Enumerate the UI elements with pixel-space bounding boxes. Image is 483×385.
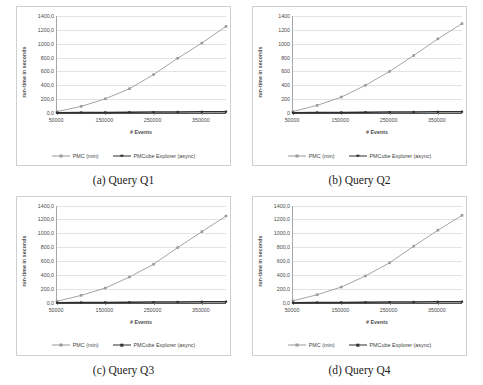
series-marker [340,285,343,288]
y-axis-tick-label: 400,0 [41,82,54,88]
y-axis-title: run-time in seconds [17,7,30,136]
subcaption-d: (d) Query Q4 [329,364,391,376]
legend-entry: PMC (min) [288,342,335,349]
plot-column: 50000150000250000350000# Events [56,197,230,326]
subfigure-b: run-time in seconds020040060080010001200… [242,6,478,194]
series-line [57,26,226,111]
plot-region: run-time in seconds0,0200,0400,0600,0800… [17,7,230,136]
series-marker [152,111,154,113]
chart-q1: run-time in seconds0,0200,0400,0600,0800… [16,6,231,166]
legend-entry: PMCube Explorer (async) [349,342,432,349]
legend-label: PMC (min) [73,342,99,348]
y-axis-tick-label: 1000 [278,41,290,47]
subcaption-b: (b) Query Q2 [329,174,391,186]
x-axis-tick-label: 350000 [428,307,446,313]
series-marker [56,301,58,303]
x-axis-title: # Events [292,129,462,135]
series-marker [388,111,390,113]
chart-legend: PMC (min)PMCube Explorer (async) [17,152,230,159]
legend-label: PMC (min) [309,342,335,348]
series-marker [201,42,204,45]
legend-label: PMCube Explorer (async) [134,342,196,348]
series-marker [80,301,82,303]
legend-entry: PMCube Explorer (async) [113,152,196,159]
series-marker [364,84,367,87]
series-marker [104,98,107,101]
y-axis-tick-label: 600,0 [41,258,54,264]
y-axis-tick-label: 400,0 [277,272,290,278]
x-axis-tick-label: 50000 [49,307,64,313]
figure-row-bottom: run-time in seconds0,0200,0400,0600,0800… [0,196,483,385]
plot-column: 50000150000250000350000# Events [292,7,466,136]
subcaption-c: (c) Query Q3 [93,364,154,376]
x-axis-tick-label: 250000 [144,117,162,123]
y-axis-title: run-time in seconds [17,197,30,326]
chart-legend: PMC (min)PMCube Explorer (async) [253,342,466,349]
y-axis-tick-label: 1000,0 [38,230,54,236]
x-axis-title: # Events [292,319,462,325]
y-axis-tick-label: 800,0 [41,244,54,250]
series-marker [128,301,130,303]
series-marker [316,111,318,113]
x-axis-tick-label: 150000 [331,117,349,123]
y-axis-tick-label: 1000,0 [274,230,290,236]
series-marker [80,105,83,108]
x-axis-tick-label: 50000 [49,117,64,123]
series-marker [461,111,463,113]
y-axis-tick-label: 600,0 [277,258,290,264]
series-marker [388,301,390,303]
legend-entry: PMC (min) [52,342,99,349]
plot-area [292,206,462,304]
series-marker [80,111,82,113]
series-marker [104,286,107,289]
y-axis-title-label: run-time in seconds [21,46,27,97]
x-axis-tick-labels: 50000150000250000350000 [292,307,462,315]
series-marker [104,111,106,113]
y-axis-tick-label: 200 [281,96,290,102]
series-canvas [57,206,226,303]
chart-q4: run-time in seconds0,0200,0400,0600,0800… [252,196,467,356]
legend-entry: PMC (min) [52,152,99,159]
y-axis-tick-label: 1400,0 [38,13,54,19]
y-axis-tick-label: 600 [281,68,290,74]
plot-area [56,206,226,304]
x-axis-tick-label: 250000 [144,307,162,313]
series-marker [340,301,342,303]
chart-q3: run-time in seconds0,0200,0400,0600,0800… [16,196,231,356]
series-marker [461,22,464,25]
x-axis-title: # Events [56,319,226,325]
series-marker [225,111,227,113]
series-marker [152,262,155,265]
plot-column: 50000150000250000350000# Events [56,7,230,136]
series-marker [201,300,203,302]
series-line [57,112,226,113]
plot-region: run-time in seconds0,0200,0400,0600,0800… [253,197,466,326]
legend-marker-icon [349,342,367,349]
series-marker [225,214,228,217]
chart-q2: run-time in seconds020040060080010001200… [252,6,467,166]
series-marker [412,244,415,247]
x-axis-tick-label: 50000 [285,117,300,123]
series-marker [413,111,415,113]
series-marker [461,214,464,217]
legend-marker-icon [113,342,131,349]
series-marker [152,73,155,76]
subfigure-c: run-time in seconds0,0200,0400,0600,0800… [6,196,242,384]
y-axis-tick-label: 1400,0 [38,203,54,209]
subfigure-a: run-time in seconds0,0200,0400,0600,0800… [6,6,242,194]
series-line [293,301,462,302]
figure-grid: run-time in seconds0,0200,0400,0600,0800… [0,0,483,385]
legend-label: PMC (min) [73,153,99,159]
y-axis-tick-label: 800 [281,55,290,61]
y-axis-tick-label: 200,0 [277,286,290,292]
series-marker [340,111,342,113]
series-canvas [293,206,462,303]
x-axis-tick-label: 150000 [95,117,113,123]
series-marker [413,300,415,302]
y-axis-tick-label: 1000,0 [38,41,54,47]
x-axis-tick-label: 250000 [380,307,398,313]
y-axis-title: run-time in seconds [253,7,266,136]
figure-row-top: run-time in seconds0,0200,0400,0600,0800… [0,6,483,196]
y-axis-title-label: run-time in seconds [257,235,263,286]
y-axis-tick-label: 0,0 [47,300,54,306]
